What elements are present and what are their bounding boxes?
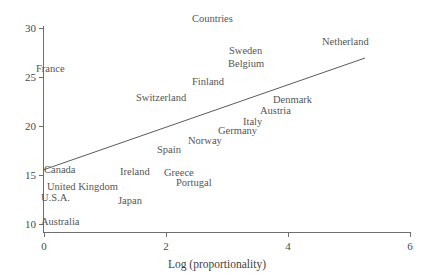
point-label-countries: Countries [192,13,233,24]
point-label-finland: Finland [192,76,224,87]
x-tick-label-0: 0 [34,241,54,252]
point-label-austria: Austria [260,105,291,116]
point-label-spain: Spain [157,144,181,155]
point-label-netherland: Netherland [322,36,369,47]
y-tick-label-25: 25 [14,72,36,83]
y-tick-15 [39,175,43,176]
x-tick-0 [44,233,45,237]
point-label-norway: Norway [188,135,222,146]
y-tick-25 [39,77,43,78]
point-label-france: France [36,63,65,74]
x-axis-line [43,232,411,233]
x-tick-2 [166,233,167,237]
x-tick-label-2: 2 [156,241,176,252]
point-label-usa: U.S.A. [41,192,70,203]
point-label-belgium: Belgium [228,58,264,69]
point-label-germany: Germany [218,125,257,136]
point-label-switzerland: Switzerland [136,92,186,103]
point-label-ireland: Ireland [120,166,150,177]
point-label-canada: Canada [44,164,76,175]
x-axis-title: Log (proportionality) [0,258,434,271]
x-tick-label-6: 6 [400,241,420,252]
point-label-united-kingdom: United Kingdom [47,181,118,192]
y-tick-20 [39,126,43,127]
y-tick-label-20: 20 [14,121,36,132]
point-label-australia: Australia [41,216,80,227]
point-label-portugal: Portugal [176,177,212,188]
point-label-sweden: Sweden [229,45,262,56]
y-tick-label-15: 15 [14,170,36,181]
x-tick-4 [288,233,289,237]
x-tick-6 [410,233,411,237]
y-tick-30 [39,28,43,29]
point-label-denmark: Denmark [273,94,312,105]
x-tick-label-4: 4 [278,241,298,252]
scatter-plot-figure: 30 25 20 15 10 0 2 4 6 Countries Netherl… [0,0,434,277]
y-tick-label-10: 10 [14,219,36,230]
point-label-japan: Japan [118,195,142,206]
y-tick-label-30: 30 [14,23,36,34]
